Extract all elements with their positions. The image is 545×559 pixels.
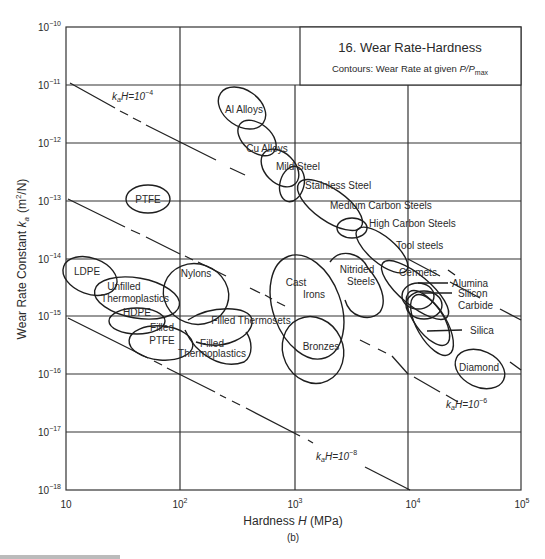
- y-tick-labels: 10−10 10−11 10−12 10−13 10−14 10−15 10−1…: [38, 20, 61, 496]
- contour-ka-h-1e-8: [68, 318, 313, 443]
- label-bronzes: Bronzes: [303, 341, 340, 352]
- label-filled-ptfe-1: Filled: [150, 322, 174, 333]
- y-tick: 10−18: [38, 483, 61, 496]
- y-tick: 10−14: [38, 252, 61, 265]
- label-cast: Cast: [286, 277, 307, 288]
- x-tick: 103: [287, 497, 302, 510]
- y-tick: 10−16: [38, 367, 61, 380]
- y-axis-label: Wear Rate Constant ka(m2/N): [14, 179, 31, 340]
- label-steels: Steels: [347, 276, 375, 287]
- y-tick: 10−10: [38, 20, 61, 33]
- label-thermoplastics: Thermoplastics: [101, 293, 169, 304]
- title-box: 16. Wear Rate-Hardness Contours: Wear Ra…: [300, 27, 521, 85]
- label-diamond: Diamond: [459, 362, 499, 373]
- label-filled-thermosets: Filled Thermosets: [211, 315, 290, 326]
- label-filled-ptfe-2: PTFE: [149, 335, 175, 346]
- x-tick: 104: [405, 497, 420, 510]
- material-labels: Al Alloys Cu Alloys Mild Steel Stainless…: [74, 104, 499, 373]
- label-irons: Irons: [303, 289, 325, 300]
- label-silica: Silica: [470, 325, 494, 336]
- y-tick: 10−17: [38, 425, 61, 438]
- y-tick: 10−11: [38, 78, 61, 91]
- label-ldpe: LDPE: [74, 266, 100, 277]
- label-tool-steels: Tool steels: [396, 240, 443, 251]
- label-medium-carbon-steels: Medium Carbon Steels: [330, 200, 432, 211]
- contour-label-1e-4: kaH=10−4: [112, 89, 153, 103]
- x-tick: 10: [60, 499, 72, 510]
- x-tick-labels: 10 102 103 104 105: [60, 497, 529, 510]
- material-bubbles: [58, 78, 521, 396]
- chart-title: 16. Wear Rate-Hardness: [338, 40, 482, 55]
- label-high-carbon-steels: High Carbon Steels: [369, 218, 456, 229]
- label-cu-alloys: Cu Alloys: [246, 143, 288, 154]
- label-cermets: Cermets: [399, 267, 437, 278]
- label-unfilled: Unfilled: [107, 281, 140, 292]
- y-tick: 10−12: [38, 136, 61, 149]
- label-filled-thermoplastics-2: Thermoplastics: [178, 348, 246, 359]
- x-tick: 105: [514, 497, 529, 510]
- label-carbide: Carbide: [458, 300, 493, 311]
- label-mild-steel: Mild Steel: [276, 161, 320, 172]
- wear-rate-hardness-chart: 16. Wear Rate-Hardness Contours: Wear Ra…: [0, 0, 545, 559]
- bubble-cu-alloys: [231, 113, 283, 163]
- label-nitrided: Nitrided: [340, 264, 374, 275]
- label-al-alloys: Al Alloys: [225, 104, 263, 115]
- label-silicon: Silicon: [458, 288, 487, 299]
- y-tick: 10−15: [38, 309, 61, 322]
- label-nylons: Nylons: [181, 268, 212, 279]
- x-axis-label: Hardness H (MPa): [243, 514, 342, 528]
- label-hdpe: HDPE: [123, 307, 151, 318]
- label-stainless-steel: Stainless Steel: [305, 180, 371, 191]
- contour-label-1e-8: kaH=10−8: [316, 449, 357, 463]
- y-tick: 10−13: [38, 194, 61, 207]
- panel-label: (b): [287, 532, 299, 543]
- caption-fragment: [0, 555, 120, 559]
- x-tick: 102: [172, 497, 187, 510]
- bubble-silica: [402, 288, 462, 362]
- label-ptfe: PTFE: [135, 194, 161, 205]
